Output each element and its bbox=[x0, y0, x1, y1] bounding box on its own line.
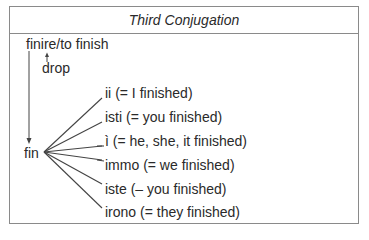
ending: isti bbox=[105, 109, 122, 125]
ending-row: ii (= I finished) bbox=[105, 85, 193, 101]
ending-row: isti (= you finished) bbox=[105, 109, 222, 125]
ending: iste bbox=[105, 181, 127, 197]
drop-label: drop bbox=[42, 60, 70, 76]
meaning: (= you finished) bbox=[126, 109, 222, 125]
ending-row: ì (= he, she, it finished) bbox=[105, 133, 247, 149]
ending-row: immo (= we finished) bbox=[105, 157, 235, 173]
meaning: (= he, she, it finished) bbox=[113, 133, 247, 149]
ending: ì bbox=[105, 133, 109, 149]
ending-row: iste (– you finished) bbox=[105, 181, 226, 197]
stem-label: fin bbox=[24, 145, 39, 161]
ending: irono bbox=[105, 204, 136, 220]
ending-row: irono (= they finished) bbox=[105, 204, 240, 220]
arrow-up-icon bbox=[45, 53, 49, 58]
meaning: (– you finished) bbox=[131, 181, 227, 197]
arrow-down-icon bbox=[27, 138, 32, 144]
meaning: (= I finished) bbox=[115, 85, 192, 101]
infinitive-label: finire/to finish bbox=[26, 36, 108, 52]
meaning: (= we finished) bbox=[143, 157, 234, 173]
meaning: (= they finished) bbox=[140, 204, 240, 220]
ending: ii bbox=[105, 85, 111, 101]
ending: immo bbox=[105, 157, 139, 173]
